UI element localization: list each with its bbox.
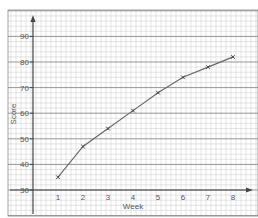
x-tick-label: 2 xyxy=(81,193,86,202)
y-tick-label: 90 xyxy=(20,32,29,41)
y-tick-label: 70 xyxy=(20,84,29,93)
x-marker-icon xyxy=(81,145,85,149)
x-tick-label: 5 xyxy=(156,193,161,202)
tick-labels: 3040506070809012345678 xyxy=(20,32,236,202)
x-axis-label: Week xyxy=(123,202,144,211)
data-series xyxy=(56,55,235,179)
x-tick-label: 8 xyxy=(231,193,236,202)
y-tick-label: 80 xyxy=(20,58,29,67)
y-tick-label: 60 xyxy=(20,109,29,118)
x-tick-label: 7 xyxy=(206,193,211,202)
y-axis-label: Score xyxy=(9,103,18,124)
x-tick-label: 3 xyxy=(106,193,111,202)
y-tick-label: 30 xyxy=(20,186,29,195)
x-tick-label: 6 xyxy=(181,193,186,202)
y-tick-label: 50 xyxy=(20,135,29,144)
y-tick-label: 40 xyxy=(20,160,29,169)
line-chart: 3040506070809012345678 Week Score xyxy=(0,0,258,218)
x-marker-icon xyxy=(131,109,135,113)
graph-paper-grid xyxy=(8,10,258,216)
axes xyxy=(10,15,253,214)
x-tick-label: 4 xyxy=(131,193,136,202)
x-marker-icon xyxy=(56,175,60,179)
x-tick-label: 1 xyxy=(56,193,61,202)
